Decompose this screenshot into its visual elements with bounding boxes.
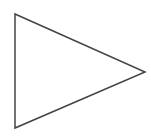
diagram-canvas xyxy=(0,0,151,140)
triangle-figure xyxy=(0,0,151,140)
right-pointing-triangle xyxy=(15,14,145,128)
